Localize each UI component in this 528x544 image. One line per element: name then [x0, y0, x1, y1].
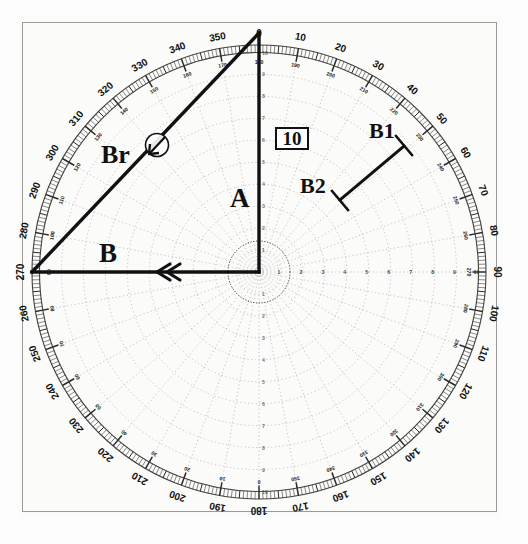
svg-text:9: 9 [262, 71, 265, 77]
svg-text:20: 20 [334, 40, 349, 54]
svg-text:260: 260 [462, 231, 469, 241]
svg-text:340: 340 [168, 39, 188, 55]
svg-text:8: 8 [431, 269, 434, 275]
svg-text:200: 200 [326, 70, 336, 79]
svg-text:150: 150 [368, 470, 388, 488]
svg-text:300: 300 [436, 372, 446, 383]
svg-text:190: 190 [208, 500, 227, 514]
label-vector-b: B [99, 240, 117, 267]
svg-text:3: 3 [262, 335, 265, 341]
svg-text:4: 4 [262, 357, 265, 363]
svg-text:300: 300 [43, 142, 61, 162]
svg-text:210: 210 [359, 85, 370, 95]
svg-text:2: 2 [262, 313, 265, 319]
svg-text:60: 60 [458, 145, 473, 161]
svg-text:150: 150 [149, 85, 160, 95]
svg-text:290: 290 [27, 180, 43, 200]
svg-text:110: 110 [57, 195, 66, 205]
svg-text:5: 5 [262, 379, 265, 385]
vector-br-direction-marker [146, 134, 169, 157]
svg-text:6: 6 [262, 401, 265, 407]
svg-text:1: 1 [262, 291, 265, 297]
svg-text:3: 3 [262, 203, 265, 209]
svg-text:240: 240 [436, 162, 446, 173]
svg-text:340: 340 [326, 465, 336, 474]
svg-text:70: 70 [58, 340, 66, 348]
svg-text:140: 140 [402, 445, 422, 464]
svg-text:250: 250 [26, 344, 42, 364]
svg-text:160: 160 [182, 70, 192, 79]
svg-text:30: 30 [150, 450, 158, 458]
svg-text:200: 200 [167, 488, 187, 504]
svg-text:8: 8 [262, 445, 265, 451]
segment-b1-b2 [332, 136, 412, 210]
label-vector-a: A [230, 185, 250, 212]
svg-text:160: 160 [331, 488, 351, 504]
svg-text:10: 10 [219, 475, 226, 482]
maneuvering-board-graphic: 123456789101122334455667788991010 010203… [0, 0, 528, 544]
svg-text:3: 3 [321, 269, 324, 275]
svg-text:6: 6 [262, 137, 265, 143]
svg-text:9: 9 [453, 269, 456, 275]
svg-text:80: 80 [488, 224, 501, 237]
svg-text:0: 0 [257, 479, 260, 485]
svg-text:90: 90 [492, 266, 503, 278]
label-point-b2: B2 [300, 175, 326, 197]
svg-text:50: 50 [434, 111, 450, 127]
svg-text:280: 280 [462, 304, 469, 314]
svg-text:4: 4 [262, 181, 265, 187]
svg-text:230: 230 [66, 415, 85, 435]
svg-text:120: 120 [72, 162, 82, 173]
svg-text:1: 1 [262, 247, 265, 253]
svg-text:290: 290 [452, 339, 461, 349]
svg-text:1: 1 [278, 269, 281, 275]
svg-text:180: 180 [250, 505, 267, 516]
svg-text:9: 9 [262, 467, 265, 473]
svg-text:130: 130 [432, 416, 451, 436]
svg-text:330: 330 [359, 449, 370, 459]
svg-text:350: 350 [208, 30, 227, 44]
svg-text:270: 270 [15, 263, 26, 280]
svg-text:190: 190 [291, 61, 301, 68]
svg-text:2: 2 [262, 225, 265, 231]
svg-text:30: 30 [371, 58, 387, 73]
svg-text:210: 210 [129, 470, 149, 488]
label-vector-br: Br [101, 142, 130, 168]
svg-text:8: 8 [262, 93, 265, 99]
scale-value-box: 10 [275, 127, 309, 150]
svg-text:250: 250 [452, 195, 461, 205]
svg-text:10: 10 [294, 30, 307, 43]
svg-text:20: 20 [183, 466, 191, 474]
svg-text:2: 2 [299, 269, 302, 275]
label-point-b1: B1 [369, 120, 395, 142]
svg-text:260: 260 [17, 304, 31, 323]
svg-text:220: 220 [95, 445, 115, 464]
plotting-sheet-page: 123456789101122334455667788991010 010203… [0, 0, 528, 544]
svg-text:320: 320 [96, 79, 116, 98]
svg-text:70: 70 [476, 183, 490, 198]
svg-text:280: 280 [17, 221, 31, 240]
svg-text:170: 170 [291, 500, 310, 514]
svg-text:270: 270 [466, 268, 472, 277]
svg-text:7: 7 [262, 115, 265, 121]
svg-text:7: 7 [262, 423, 265, 429]
svg-text:7: 7 [409, 269, 412, 275]
svg-text:350: 350 [291, 475, 301, 482]
svg-text:40: 40 [405, 81, 421, 97]
svg-text:330: 330 [130, 56, 150, 74]
svg-text:310: 310 [66, 108, 85, 128]
svg-text:60: 60 [73, 373, 81, 381]
svg-text:100: 100 [487, 304, 501, 323]
svg-text:100: 100 [48, 231, 55, 241]
svg-text:120: 120 [457, 381, 475, 401]
svg-text:240: 240 [43, 381, 61, 401]
svg-text:5: 5 [262, 159, 265, 165]
svg-text:110: 110 [475, 344, 491, 363]
svg-text:4: 4 [343, 269, 346, 275]
svg-text:80: 80 [49, 305, 56, 312]
svg-text:5: 5 [365, 269, 368, 275]
svg-text:6: 6 [387, 269, 390, 275]
